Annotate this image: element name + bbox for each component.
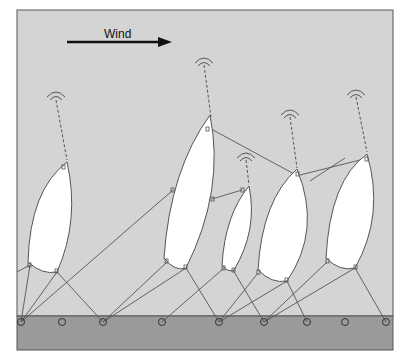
ground-strip xyxy=(17,316,393,350)
kite-array-diagram xyxy=(0,0,406,360)
wind-label: Wind xyxy=(104,27,131,41)
